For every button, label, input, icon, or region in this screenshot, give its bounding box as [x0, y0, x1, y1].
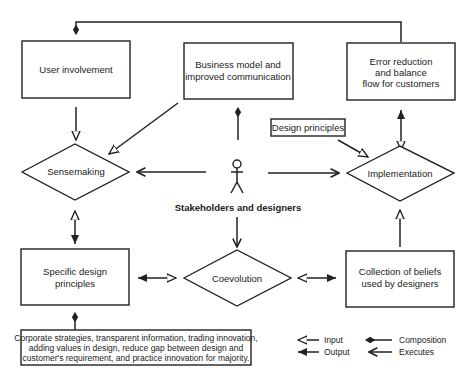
node-label: and balance	[375, 67, 427, 78]
legend-composition: Composition	[366, 335, 447, 345]
legend-label: Output	[324, 347, 350, 357]
node-coevolution: Coevolution	[184, 250, 291, 306]
node-label: Sensemaking	[47, 166, 105, 177]
node-business-model: Business model and improved communicatio…	[184, 43, 293, 99]
legend: Input Output Composition Executes	[298, 335, 447, 357]
node-error-reduction: Error reduction and balance flow for cus…	[347, 43, 455, 100]
stakeholders-label: Stakeholders and designers	[175, 202, 302, 213]
legend-output: Output	[298, 347, 350, 357]
legend-executes: Executes	[369, 347, 434, 357]
edge-error-to-user-composition	[76, 22, 401, 42]
edge-business-to-sensemaking	[109, 103, 178, 154]
node-collection-of-beliefs: Collection of beliefs used by designers	[346, 251, 454, 307]
node-label: Corporate strategies, transparent inform…	[14, 333, 257, 343]
node-label: Collection of beliefs	[359, 266, 442, 277]
legend-label: Executes	[399, 347, 434, 357]
legend-input: Input	[298, 335, 344, 345]
diagram-canvas: User involvement Business model and impr…	[0, 0, 476, 384]
stakeholder-actor-icon	[231, 160, 243, 193]
node-label: Error reduction	[370, 56, 433, 67]
node-label: User involvement	[39, 64, 113, 75]
node-label: adding values in design, reduce gap betw…	[29, 343, 244, 353]
legend-label: Composition	[399, 335, 447, 345]
node-label: Design principles	[272, 122, 345, 133]
node-label: Business model and	[195, 59, 281, 70]
node-user-involvement: User involvement	[22, 41, 130, 98]
node-specific-design-principles: Specific design principles	[21, 249, 129, 305]
node-label: Specific design	[43, 266, 107, 277]
node-sensemaking: Sensemaking	[22, 144, 129, 200]
node-label: Coevolution	[212, 273, 262, 284]
node-label: flow for customers	[362, 78, 439, 89]
node-label: Implementation	[368, 168, 433, 179]
node-label: used by designers	[361, 278, 438, 289]
legend-label: Input	[324, 335, 344, 345]
node-corporate-strategies: Corporate strategies, transparent inform…	[14, 330, 257, 365]
node-label: principles	[55, 278, 95, 289]
node-design-principles: Design principles	[271, 119, 345, 136]
edge-design-principles-to-implementation	[338, 140, 368, 157]
node-label: customer's requirement, and practice inn…	[23, 353, 250, 363]
node-label: improved communication	[185, 71, 291, 82]
